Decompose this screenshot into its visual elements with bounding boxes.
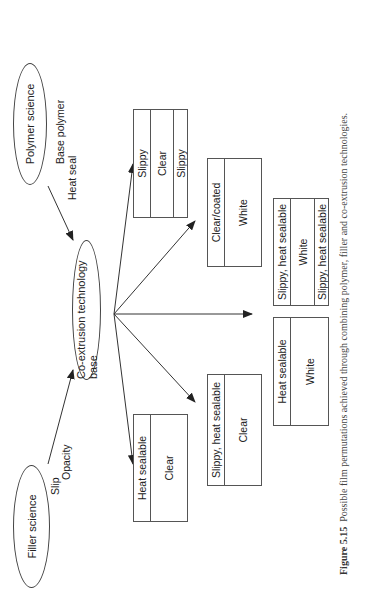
film-layer: Clear [150, 110, 173, 217]
figure-canvas: Polymer science Filler science Co-extrus… [0, 0, 384, 604]
film-clearcoated-white: Clear/coated White [207, 158, 262, 267]
base-polymer-label: Base polymer [54, 100, 66, 164]
film-heatsealable-white: Heat sealable White [273, 317, 329, 426]
film-layer: Heat sealable [134, 415, 150, 521]
film-layer: Slippy [173, 110, 187, 217]
film-layer: Clear/coated [208, 159, 224, 266]
film-layer: Heat sealable [274, 318, 290, 425]
film-slippyheat-white-slippyheat: Slippy, heat sealable White Slippy, heat… [273, 198, 329, 306]
film-layer: Slippy, heat sealable [208, 375, 224, 485]
film-layer: Slippy [134, 110, 150, 217]
opacity-label: Opacity [60, 444, 72, 480]
coextrusion-base-label: Co-extrusion technology base [75, 241, 99, 379]
film-layer: White [224, 159, 261, 266]
film-layer: Slippy, heat sealable [314, 199, 328, 305]
figure-caption: Figure 5.15 Possible film permutations a… [338, 113, 349, 575]
coextrusion-base-node: Co-extrusion technology base [72, 240, 101, 380]
film-slippy-clear-slippy: Slippy Clear Slippy [133, 109, 188, 218]
figure-number: Figure 5.15 [338, 527, 349, 575]
film-layer: Clear [150, 415, 187, 521]
film-layer: Clear [224, 375, 261, 485]
polymer-science-node: Polymer science [13, 63, 47, 185]
heat-seal-label: Heat seal [66, 156, 78, 200]
film-layer: Slippy, heat sealable [274, 199, 290, 305]
film-slippyheat-clear: Slippy, heat sealable Clear [207, 374, 262, 486]
figure-caption-text: Possible film permutations achieved thro… [338, 113, 349, 522]
filler-science-node: Filler science [13, 465, 50, 588]
filler-science-label: Filler science [26, 494, 38, 558]
film-heatsealable-clear: Heat sealable Clear [133, 414, 188, 522]
film-layer: White [290, 318, 328, 425]
film-layer: White [290, 199, 314, 305]
polymer-science-label: Polymer science [24, 84, 36, 165]
slip-label: Slip [49, 477, 61, 495]
